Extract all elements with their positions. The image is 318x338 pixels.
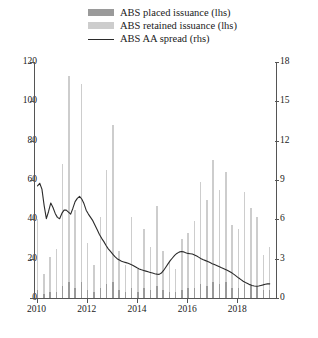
x-axis-tick-label: 2014	[127, 305, 146, 315]
legend-item-retained-issuance: ABS retained issuance (lhs)	[0, 19, 318, 32]
y-axis-right-tick-label: 18	[280, 57, 306, 67]
plot-inner	[35, 62, 276, 298]
legend-item-aa-spread: ABS AA spread (rhs)	[0, 32, 318, 45]
chart-figure: ABS placed issuance (lhs) ABS retained i…	[0, 0, 318, 338]
y-axis-right-tick-label: 12	[280, 136, 306, 146]
y-axis-right-tick-label: 6	[280, 214, 306, 224]
y-axis-right-tick-label: 15	[280, 96, 306, 106]
x-axis-tick-label: 2012	[77, 305, 96, 315]
x-axis-tick-label: 2016	[178, 305, 197, 315]
legend-label-retained-issuance: ABS retained issuance (lhs)	[120, 19, 237, 32]
x-axis-tick-mark	[87, 299, 88, 303]
line-swatch-icon	[88, 39, 114, 40]
x-axis-tick-mark	[37, 299, 38, 303]
legend-item-placed-issuance: ABS placed issuance (lhs)	[0, 6, 318, 19]
y-axis-right-tick-label: 9	[280, 175, 306, 185]
chart-legend: ABS placed issuance (lhs) ABS retained i…	[0, 6, 318, 45]
bar-light-swatch-icon	[88, 22, 114, 29]
x-axis-tick-label: 2010	[27, 305, 46, 315]
x-axis-tick-mark	[187, 299, 188, 303]
plot-area	[34, 62, 277, 299]
y-axis-right-tick-label: 3	[280, 254, 306, 264]
spread-polyline	[38, 183, 270, 286]
legend-label-placed-issuance: ABS placed issuance (lhs)	[120, 6, 231, 19]
y-axis-right-tick-label: 0	[280, 293, 306, 303]
x-axis-tick-label: 2018	[228, 305, 247, 315]
spread-line-series	[35, 62, 276, 298]
x-axis-tick-mark	[137, 299, 138, 303]
legend-label-aa-spread: ABS AA spread (rhs)	[120, 32, 210, 45]
bar-dark-swatch-icon	[88, 9, 114, 16]
x-axis-tick-mark	[237, 299, 238, 303]
